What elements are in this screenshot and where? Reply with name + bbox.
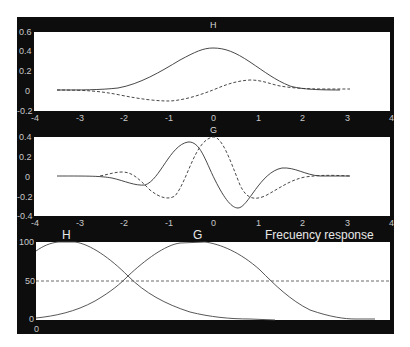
panel-h: H 0.6 0.4 0.2 0 -0.2 -4 -3 -2 -1 0 1 2 3…	[17, 20, 394, 123]
xtick: -2	[120, 218, 128, 228]
xtick: -2	[120, 113, 128, 123]
xtick: -4	[31, 218, 39, 228]
panel-title-frequency: Frecuency response	[265, 228, 374, 242]
ytick: 50	[25, 276, 35, 286]
label-h: H	[62, 228, 71, 242]
ytick: 0.4	[19, 132, 32, 142]
label-g: G	[193, 228, 202, 242]
ytick: 0.2	[19, 152, 32, 162]
ytick: 0.6	[19, 27, 32, 37]
xtick: 4	[389, 113, 394, 123]
ytick: 0.4	[19, 46, 32, 56]
xtick: -1	[165, 113, 173, 123]
xtick: 0	[34, 324, 39, 334]
xtick: -3	[76, 113, 84, 123]
xtick: -1	[165, 218, 173, 228]
xtick: -3	[76, 218, 84, 228]
xtick: -4	[31, 113, 39, 123]
ytick: 0	[29, 314, 34, 324]
panel-title-g: G	[210, 125, 217, 135]
xtick: 2	[300, 113, 305, 123]
panel-title-h: H	[210, 20, 217, 30]
plot-area-h	[34, 32, 390, 111]
xtick: 3	[345, 218, 350, 228]
ytick: 0	[25, 86, 30, 96]
panel-frequency-response: Frecuency response H G 100 50 0 0	[19, 228, 390, 334]
ytick: 0.2	[19, 66, 32, 76]
xtick: 0	[211, 218, 216, 228]
ytick: -0.2	[17, 192, 33, 202]
ytick: 0	[25, 172, 30, 182]
xtick: 3	[345, 113, 350, 123]
xtick: 1	[256, 113, 261, 123]
xtick: 0	[211, 113, 216, 123]
panel-g: G 0.4 0.2 0 -0.2 -0.4 -4 -3 -2 -1 0 1 2 …	[17, 125, 394, 228]
ytick: 100	[19, 237, 34, 247]
figure: H 0.6 0.4 0.2 0 -0.2 -4 -3 -2 -1 0 1 2 3…	[0, 0, 410, 347]
xtick: 2	[300, 218, 305, 228]
xtick: 1	[256, 218, 261, 228]
xtick: 4	[389, 218, 394, 228]
